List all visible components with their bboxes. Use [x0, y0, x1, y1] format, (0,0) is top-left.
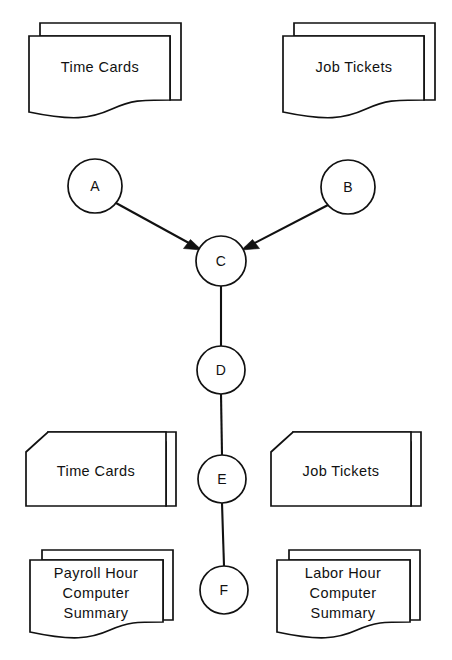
- node-f[interactable]: F: [200, 566, 248, 614]
- payroll-summary-line-3: Summary: [64, 605, 129, 621]
- flowchart-canvas: Time Cards Job Tickets A: [0, 0, 452, 660]
- connector-line-d-e: [221, 394, 222, 455]
- node-d[interactable]: D: [197, 346, 245, 394]
- labor-summary-line-3: Summary: [311, 605, 376, 621]
- job-tickets-punch-card-label: Job Tickets: [303, 463, 380, 479]
- job-tickets-punch-card: Job Tickets: [271, 432, 421, 506]
- job-tickets-document-top-label: Job Tickets: [316, 59, 393, 75]
- job-tickets-document-top: Job Tickets: [283, 23, 435, 118]
- node-e[interactable]: E: [198, 455, 246, 503]
- connector-line-b-c: [245, 205, 328, 248]
- labor-hour-computer-summary-document: Labor Hour Computer Summary: [277, 550, 420, 638]
- payroll-summary-line-2: Computer: [63, 585, 130, 601]
- labor-summary-line-1: Labor Hour: [305, 565, 382, 581]
- document-front-sheet: [283, 36, 424, 118]
- document-front-sheet: [29, 36, 170, 118]
- labor-summary-line-2: Computer: [310, 585, 377, 601]
- node-f-label: F: [220, 582, 229, 598]
- node-b[interactable]: B: [321, 160, 375, 214]
- node-a[interactable]: A: [68, 159, 122, 213]
- node-d-label: D: [216, 362, 226, 378]
- flowchart-diagram: Time Cards Job Tickets A: [0, 0, 452, 660]
- time-cards-document-top: Time Cards: [29, 23, 181, 118]
- connector-line-e-f: [222, 503, 224, 566]
- node-c-label: C: [216, 253, 226, 269]
- connector-line-a-c: [116, 203, 198, 248]
- time-cards-document-top-label: Time Cards: [61, 59, 139, 75]
- time-cards-punch-card: Time Cards: [26, 432, 176, 506]
- connector-b-to-c: [242, 205, 329, 250]
- payroll-hour-computer-summary-document: Payroll Hour Computer Summary: [30, 550, 173, 638]
- payroll-summary-line-1: Payroll Hour: [54, 565, 139, 581]
- time-cards-punch-card-label: Time Cards: [57, 463, 135, 479]
- node-b-label: B: [343, 179, 353, 195]
- node-a-label: A: [90, 178, 100, 194]
- node-c[interactable]: C: [196, 236, 246, 286]
- connector-a-to-c: [116, 203, 202, 250]
- node-e-label: E: [217, 471, 227, 487]
